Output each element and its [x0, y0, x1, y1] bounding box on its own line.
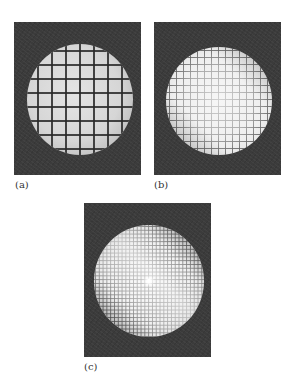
panel-b-image	[154, 22, 281, 175]
edge-shading	[166, 47, 272, 155]
central-bright-spot	[147, 279, 151, 283]
panel-c-image	[84, 203, 211, 357]
panel-b-label: (b)	[154, 180, 168, 190]
panel-c-label: (c)	[84, 362, 97, 372]
panel-a-image	[14, 22, 141, 175]
coarse-grid-pattern	[27, 44, 133, 155]
field-of-view-disc	[94, 225, 204, 337]
panel-a-label: (a)	[15, 180, 29, 190]
field-of-view-disc	[166, 47, 272, 155]
field-of-view-disc	[27, 44, 133, 155]
